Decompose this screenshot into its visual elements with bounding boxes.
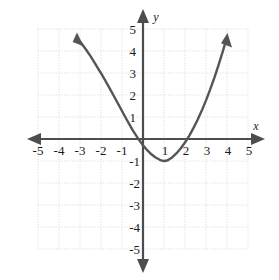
x-tick-label: 4 xyxy=(225,143,232,158)
x-tick-label: 5 xyxy=(246,143,253,158)
x-axis-label: x xyxy=(252,119,259,133)
x-tick-label: -1 xyxy=(117,143,128,158)
y-tick-label: 4 xyxy=(130,44,137,59)
y-axis-down-arrowhead-icon xyxy=(137,259,149,273)
graph-figure: -5 -4 -3 -2 -1 1 2 3 4 5 5 4 3 2 1 -1 -2… xyxy=(0,0,279,280)
y-tick-label: -4 xyxy=(129,220,140,235)
parabola-curve xyxy=(73,33,232,162)
y-tick-label: 5 xyxy=(130,22,137,37)
y-tick-label: 1 xyxy=(130,110,137,125)
y-tick-label: 2 xyxy=(130,88,137,103)
x-tick-label: -5 xyxy=(33,143,44,158)
x-axis-right-arrowhead-icon xyxy=(251,133,265,145)
y-tick-label: -3 xyxy=(129,198,140,213)
x-tick-label: 3 xyxy=(204,143,211,158)
x-tick-label: 2 xyxy=(183,143,190,158)
y-axis-label: y xyxy=(152,10,159,24)
axes xyxy=(27,9,265,273)
y-tick-label: -5 xyxy=(129,242,140,257)
y-tick-label: -1 xyxy=(129,154,140,169)
y-tick-label: -2 xyxy=(129,176,140,191)
coordinate-plane-svg: -5 -4 -3 -2 -1 1 2 3 4 5 5 4 3 2 1 -1 -2… xyxy=(0,0,279,280)
x-tick-label: 1 xyxy=(162,143,169,158)
y-tick-label: 3 xyxy=(130,66,137,81)
x-tick-label: -2 xyxy=(96,143,107,158)
x-tick-label: -3 xyxy=(75,143,86,158)
parabola-right-arrowhead-icon xyxy=(221,33,232,48)
y-axis-up-arrowhead-icon xyxy=(137,9,149,23)
x-tick-label: -4 xyxy=(54,143,65,158)
parabola-left-arrowhead-icon xyxy=(73,33,84,47)
